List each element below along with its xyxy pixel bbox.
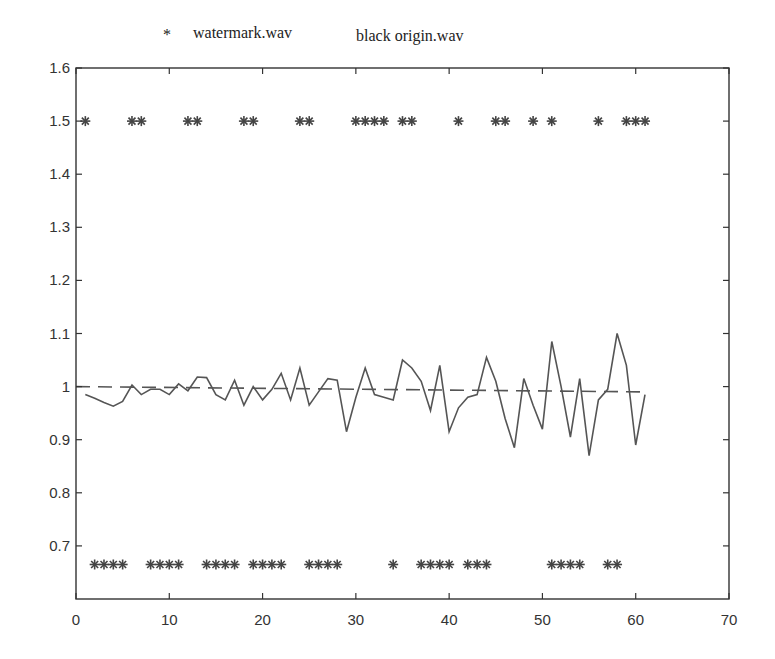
legend: * watermark.wav black origin.wav	[163, 24, 464, 45]
star-marker	[146, 559, 156, 569]
star-marker	[453, 116, 463, 126]
star-marker	[136, 116, 146, 126]
star-marker	[416, 559, 426, 569]
y-tick-label: 1.1	[49, 325, 70, 342]
x-tick-label: 70	[721, 611, 738, 628]
y-tick-label: 0.7	[49, 537, 70, 554]
axes-box	[76, 68, 729, 599]
star-marker	[304, 116, 314, 126]
star-marker	[528, 116, 538, 126]
chart: * watermark.wav black origin.wav 0102030…	[0, 0, 775, 659]
star-marker	[425, 559, 435, 569]
star-marker	[239, 116, 249, 126]
x-tick-label: 60	[627, 611, 644, 628]
star-marker	[435, 559, 445, 569]
star-marker	[621, 116, 631, 126]
star-marker	[127, 116, 137, 126]
star-marker	[370, 116, 380, 126]
y-tick-label: 1.6	[49, 59, 70, 76]
star-marker	[500, 116, 510, 126]
star-marker	[99, 559, 109, 569]
star-marker	[547, 116, 557, 126]
y-tick-label: 1.2	[49, 271, 70, 288]
star-marker	[323, 559, 333, 569]
star-marker	[444, 559, 454, 569]
star-marker	[332, 559, 342, 569]
y-tick-label: 1.4	[49, 165, 70, 182]
star-marker	[565, 559, 575, 569]
star-marker	[640, 116, 650, 126]
legend-label-watermark: watermark.wav	[193, 24, 292, 41]
x-tick-label: 20	[254, 611, 271, 628]
y-tick-label: 0.9	[49, 431, 70, 448]
star-marker	[258, 559, 268, 569]
star-marker	[202, 559, 212, 569]
y-tick-label: 1.3	[49, 218, 70, 235]
star-marker	[295, 116, 305, 126]
star-marker	[351, 116, 361, 126]
plot-area	[76, 116, 650, 569]
y-tick-label: 1.5	[49, 112, 70, 129]
star-marker	[155, 559, 165, 569]
star-marker	[230, 559, 240, 569]
star-marker	[407, 116, 417, 126]
y-tick-label: 0.8	[49, 484, 70, 501]
star-marker	[192, 116, 202, 126]
y-tick-label: 1	[62, 378, 70, 395]
star-marker	[90, 559, 100, 569]
x-tick-label: 50	[534, 611, 551, 628]
star-marker	[360, 116, 370, 126]
star-marker	[547, 559, 557, 569]
star-marker	[248, 559, 258, 569]
star-marker	[267, 559, 277, 569]
star-marker	[183, 116, 193, 126]
axes: 0102030405060700.70.80.911.11.21.31.41.5…	[49, 59, 737, 628]
star-marker	[472, 559, 482, 569]
x-tick-label: 0	[72, 611, 80, 628]
star-marker	[631, 116, 641, 126]
star-marker	[612, 559, 622, 569]
star-marker	[491, 116, 501, 126]
star-marker	[211, 559, 221, 569]
star-marker	[118, 559, 128, 569]
star-marker	[164, 559, 174, 569]
x-tick-label: 10	[161, 611, 178, 628]
star-marker	[314, 559, 324, 569]
legend-marker-watermark: *	[163, 26, 171, 43]
star-marker	[174, 559, 184, 569]
x-tick-label: 40	[441, 611, 458, 628]
star-marker	[556, 559, 566, 569]
star-marker	[575, 559, 585, 569]
x-tick-label: 30	[348, 611, 365, 628]
signal-line	[85, 334, 645, 456]
star-marker	[481, 559, 491, 569]
star-marker	[463, 559, 473, 569]
star-marker	[108, 559, 118, 569]
star-marker	[603, 559, 613, 569]
star-marker	[276, 559, 286, 569]
star-marker	[220, 559, 230, 569]
star-marker	[398, 116, 408, 126]
star-marker	[248, 116, 258, 126]
legend-label-origin: black origin.wav	[356, 27, 464, 45]
star-marker	[388, 559, 398, 569]
star-marker	[593, 116, 603, 126]
star-marker	[379, 116, 389, 126]
star-marker	[304, 559, 314, 569]
